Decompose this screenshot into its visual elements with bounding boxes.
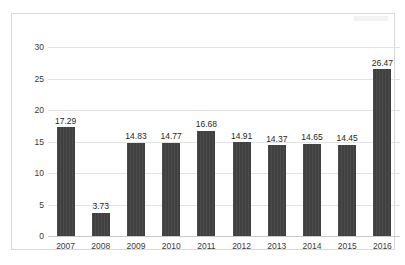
x-axis-tick-label: 2011	[197, 242, 215, 251]
bar-value-label: 14.37	[266, 135, 287, 144]
bar[interactable]	[303, 144, 321, 236]
bar-value-label: 14.83	[125, 132, 146, 141]
bar[interactable]	[57, 127, 75, 236]
bar-value-label: 3.73	[93, 202, 110, 211]
x-axis-tick-label: 2014	[303, 242, 322, 251]
y-axis-tick-label: 0	[18, 232, 44, 241]
bar-value-label: 16.68	[196, 120, 217, 129]
x-axis-tick-label: 2007	[56, 242, 75, 251]
bar-group: 14.45	[330, 47, 365, 236]
x-axis-tick-label: 2009	[127, 242, 146, 251]
y-axis-tick-label: 10	[18, 169, 44, 178]
y-axis-tick-label: 25	[18, 74, 44, 83]
x-axis-tick-label: 2012	[232, 242, 251, 251]
bar-group: 14.65	[294, 47, 329, 236]
x-axis-tick-label: 2008	[91, 242, 110, 251]
bar-group: 16.68	[189, 47, 224, 236]
bar-group: 14.37	[259, 47, 294, 236]
bar[interactable]	[92, 213, 110, 236]
x-axis: 2007200820092010201120122013201420152016	[48, 242, 400, 256]
plot-area: 17.293.7314.8314.7716.6814.9114.3714.651…	[48, 47, 400, 236]
scan-artifact	[354, 16, 388, 21]
bar-value-label: 26.47	[372, 59, 393, 68]
y-axis-tick-label: 15	[18, 137, 44, 146]
y-axis-tick-label: 5	[18, 200, 44, 209]
y-axis-tick-label: 20	[18, 106, 44, 115]
bar-group: 14.77	[154, 47, 189, 236]
bar[interactable]	[127, 143, 145, 236]
bar-group: 17.29	[48, 47, 83, 236]
x-axis-tick-label: 2015	[338, 242, 357, 251]
bar-group: 14.83	[118, 47, 153, 236]
bar-value-label: 14.91	[231, 132, 252, 141]
y-axis: 051015202530	[12, 47, 44, 236]
x-axis-tick-label: 2016	[373, 242, 392, 251]
bar-value-label: 17.29	[55, 117, 76, 126]
bar[interactable]	[373, 69, 391, 236]
bar-value-label: 14.77	[161, 132, 182, 141]
x-axis-line	[48, 236, 400, 237]
bar[interactable]	[197, 131, 215, 236]
bar[interactable]	[162, 143, 180, 236]
bar-group: 3.73	[83, 47, 118, 236]
x-axis-tick-label: 2010	[162, 242, 181, 251]
bar-group: 14.91	[224, 47, 259, 236]
chart-frame: 051015202530 17.293.7314.8314.7716.6814.…	[11, 13, 395, 250]
bar[interactable]	[233, 142, 251, 236]
bar-value-label: 14.45	[337, 134, 358, 143]
bar[interactable]	[268, 145, 286, 236]
x-axis-tick-label: 2013	[267, 242, 286, 251]
bar-value-label: 14.65	[301, 133, 322, 142]
bar[interactable]	[338, 145, 356, 236]
y-axis-tick-label: 30	[18, 43, 44, 52]
bar-group: 26.47	[365, 47, 400, 236]
